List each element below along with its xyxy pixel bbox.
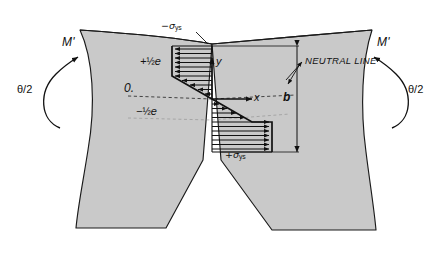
origin-label: 0. — [124, 82, 134, 94]
figure-canvas: M' θ/2 M' θ/2 −σys +σys +½e −½e 0. x y b… — [0, 0, 445, 260]
stress-bottom-symbol: +σ — [225, 149, 239, 160]
strain-label-upper: +½e — [140, 56, 161, 67]
stress-label-top: −σys — [161, 21, 182, 32]
rotation-label-right: θ/2 — [408, 84, 423, 95]
rotation-label-left: θ/2 — [17, 84, 32, 95]
moment-label-left: M' — [62, 36, 75, 48]
axis-y-label: y — [216, 56, 222, 67]
strain-upper-fraction: ½ — [146, 56, 154, 67]
moment-arrow-left — [44, 57, 78, 128]
moment-arrow-right — [374, 57, 408, 128]
dimension-b-label: b — [283, 91, 290, 103]
moment-label-right: M' — [377, 36, 390, 48]
strain-upper-var: e — [155, 55, 161, 67]
strain-label-lower: −½e — [136, 106, 157, 117]
neutral-line-label: NEUTRAL LINE — [305, 56, 377, 66]
stress-top-subscript: ys — [175, 24, 182, 31]
stress-top-symbol: −σ — [161, 20, 175, 31]
strain-lower-fraction: ½ — [142, 106, 150, 117]
strain-lower-var: e — [151, 105, 157, 117]
stress-bottom-subscript: ys — [239, 153, 246, 160]
stress-label-bottom: +σys — [225, 150, 246, 161]
axis-x-label: x — [254, 92, 260, 103]
